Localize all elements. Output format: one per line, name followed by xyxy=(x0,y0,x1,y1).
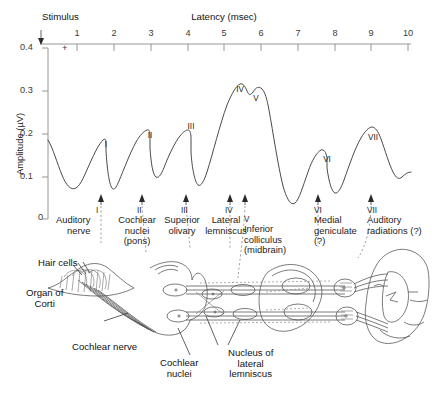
peak-label-VII: VII xyxy=(368,133,378,142)
generator-name-VI: Medial geniculate (?) xyxy=(314,215,357,247)
x-tick-8: 8 xyxy=(332,28,337,38)
label-cochlear-nerve: Cochlear nerve xyxy=(72,342,137,353)
x-tick-6: 6 xyxy=(258,28,263,38)
brainstem-outline xyxy=(146,262,207,336)
peak-label-VI: VI xyxy=(323,155,331,164)
x-tick-3: 3 xyxy=(148,28,153,38)
x-tick-4: 4 xyxy=(185,28,190,38)
x-tick-10: 10 xyxy=(403,28,413,38)
abr-figure: Stimulus Latency (msec) Amplitude (µV) 1… xyxy=(0,0,432,402)
generator-roman-I: I xyxy=(96,206,98,215)
y-tick-02: 0.2 xyxy=(20,128,33,138)
auditory-radiations xyxy=(354,274,388,332)
label-nucleus-lateral-lemniscus: Nucleus of lateral lemniscus xyxy=(228,348,273,380)
x-tick-9: 9 xyxy=(368,28,373,38)
generator-name-VII: Auditory radiations (?) xyxy=(367,215,422,236)
inferior-colliculus-shape xyxy=(259,265,322,332)
y-tick-0: 0 xyxy=(38,212,43,222)
x-axis-title: Latency (msec) xyxy=(191,12,257,23)
anatomy-diagram xyxy=(48,249,429,355)
x-tick-7: 7 xyxy=(295,28,300,38)
peak-label-IV: IV xyxy=(236,85,244,94)
x-axis xyxy=(40,44,411,51)
label-hair-cells: Hair cells xyxy=(38,258,77,269)
y-axis-title: Amplitude (µV) xyxy=(14,113,25,175)
y-tick-03: 0.3 xyxy=(20,85,33,95)
label-cochlear-nuclei: Cochlear nuclei xyxy=(160,358,198,379)
peak-label-I: I xyxy=(105,140,107,149)
x-tick-2: 2 xyxy=(111,28,116,38)
cochlear-nerve-bundle xyxy=(78,280,156,332)
stimulus-label: Stimulus xyxy=(42,12,79,23)
x-tick-5: 5 xyxy=(221,28,226,38)
peak-label-III: III xyxy=(188,122,195,131)
y-axis xyxy=(42,48,48,219)
stimulus-arrow xyxy=(38,30,44,45)
x-tick-1: 1 xyxy=(74,28,79,38)
y-tick-04: 0.4 xyxy=(20,42,33,52)
cerebral-hemisphere xyxy=(365,249,429,343)
label-organ-of-corti: Organ of Corti xyxy=(26,288,63,309)
generator-name-I: Auditory nerve xyxy=(56,215,90,236)
y-tick-01: 0.1 xyxy=(20,171,33,181)
figure-canvas xyxy=(0,0,432,402)
abr-waveform xyxy=(48,84,411,204)
generator-name-V: Inferior colliculus (midbrain) xyxy=(244,224,286,256)
peak-label-V: V xyxy=(253,94,258,103)
polarity-plus-marker: + xyxy=(62,43,67,53)
peak-label-II: II xyxy=(148,131,153,140)
